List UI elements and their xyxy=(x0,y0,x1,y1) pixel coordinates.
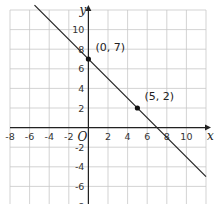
axes: xyO xyxy=(10,3,214,204)
y-tick-label: -4 xyxy=(75,161,84,172)
x-tick-label: 10 xyxy=(180,131,192,142)
x-tick-label: 4 xyxy=(125,131,131,142)
x-axis-label: x xyxy=(207,129,214,143)
x-tick-label: -8 xyxy=(5,131,14,142)
data-point xyxy=(135,105,140,110)
y-axis-label: y xyxy=(78,3,86,17)
x-tick-label: -2 xyxy=(64,131,73,142)
x-tick-label: 2 xyxy=(105,131,111,142)
data-point xyxy=(86,56,91,61)
x-tick-label: -4 xyxy=(44,131,53,142)
y-tick-label: -8 xyxy=(75,201,84,205)
x-tick-label: 6 xyxy=(144,131,150,142)
grid xyxy=(10,10,206,204)
y-tick-label: 2 xyxy=(78,103,84,114)
coordinate-plane: xyO -8-6-4-2246810108642-2-4-6-8 (0, 7)(… xyxy=(0,0,214,204)
y-tick-label: -2 xyxy=(75,142,84,153)
y-tick-label: 4 xyxy=(78,83,84,94)
plotted-line xyxy=(35,5,207,177)
y-tick-label: 10 xyxy=(72,24,84,35)
line-y-equals-negative-x-plus-7 xyxy=(35,5,207,177)
y-tick-label: -6 xyxy=(75,181,84,192)
point-label: (5, 2) xyxy=(144,90,174,103)
point-label: (0, 7) xyxy=(95,41,125,54)
y-axis-arrow-icon xyxy=(85,5,91,11)
y-tick-label: 6 xyxy=(78,63,84,74)
x-tick-label: -6 xyxy=(25,131,34,142)
